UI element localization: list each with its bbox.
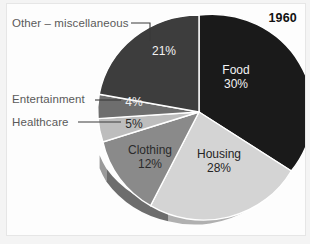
callout-label-healthcare: Healthcare: [12, 116, 69, 128]
slice-label-other: 21%: [140, 44, 188, 58]
slice-label-other-pct: 21%: [140, 44, 188, 58]
slice-label-food-name: Food: [206, 63, 266, 77]
slice-label-clothing-pct: 12%: [118, 157, 182, 171]
slice-side-healthcare: [100, 155, 107, 181]
slice-label-housing-name: Housing: [186, 147, 252, 161]
chart-canvas: 1960 Other – miscellaneous Entertainment…: [0, 0, 310, 244]
slice-label-healthcare-pct: 5%: [117, 117, 151, 131]
year-label: 1960: [268, 11, 297, 25]
slice-label-entertainment-pct: 4%: [117, 95, 151, 109]
slice-label-healthcare: 5%: [117, 117, 151, 131]
slice-label-food: Food 30%: [206, 63, 266, 91]
slice-label-food-pct: 30%: [206, 77, 266, 91]
callout-label-entertainment: Entertainment: [12, 93, 85, 105]
callout-label-other: Other – miscellaneous: [12, 17, 129, 29]
slice-label-clothing-name: Clothing: [118, 143, 182, 157]
slice-label-entertainment: 4%: [117, 95, 151, 109]
slice-label-housing-pct: 28%: [186, 161, 252, 175]
slice-label-clothing: Clothing 12%: [118, 143, 182, 171]
slice-label-housing: Housing 28%: [186, 147, 252, 175]
